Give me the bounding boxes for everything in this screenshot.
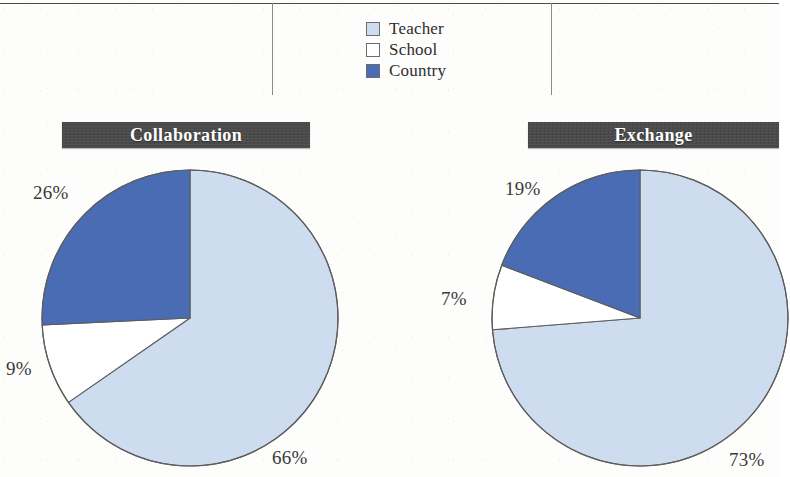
chart-legend: Teacher School Country [366, 18, 516, 81]
legend-label-school: School [389, 40, 437, 59]
panel-title-text-exchange: Exchange [614, 125, 692, 146]
pie-label-collaboration-teacher: 66% [272, 447, 308, 469]
legend-swatch-country-icon [366, 64, 380, 78]
pie-label-collaboration-country: 26% [33, 182, 69, 204]
panel-title-text-collaboration: Collaboration [130, 125, 242, 146]
legend-label-country: Country [389, 61, 446, 80]
vertical-divider-left [272, 3, 273, 95]
pie-svg-exchange [490, 168, 790, 468]
legend-item-school: School [366, 39, 516, 60]
legend-swatch-teacher-icon [366, 22, 380, 36]
pie-label-exchange-teacher: 73% [729, 449, 765, 471]
pie-label-exchange-school: 7% [441, 288, 467, 310]
panel-title-banner-exchange: Exchange [528, 122, 779, 148]
legend-item-country: Country [366, 60, 516, 81]
pie-svg-collaboration [40, 168, 340, 468]
pie-label-exchange-country: 19% [505, 178, 541, 200]
legend-label-teacher: Teacher [389, 19, 444, 38]
panel-title-banner-collaboration: Collaboration [62, 122, 310, 148]
legend-item-teacher: Teacher [366, 18, 516, 39]
pie-chart-exchange [490, 168, 790, 468]
pie-chart-collaboration [40, 168, 340, 468]
legend-swatch-school-icon [366, 43, 380, 57]
vertical-divider-right [551, 3, 552, 95]
pie-label-collaboration-school: 9% [6, 358, 32, 380]
top-horizontal-rule [0, 3, 779, 4]
